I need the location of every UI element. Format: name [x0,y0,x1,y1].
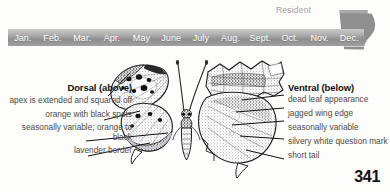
ventral-callout-tail: short tail [288,151,388,161]
ventral-callout-group: Ventral (below) dead leaf appearance jag… [288,82,388,165]
dorsal-callout-seasonal: seasonally variable; orange to black [4,123,132,142]
month-jan: Jan. [8,33,38,43]
dorsal-heading: Dorsal (above) [4,82,132,94]
ventral-callout-deadleaf: dead leaf appearance [288,95,388,105]
month-mar: Mar. [67,33,97,43]
month-nov: Nov. [305,33,335,43]
flight-period-month-bar: Jan. Feb. Mar. Apr. May June July Aug. S… [8,29,364,46]
ventral-callout-seasonal: seasonally variable [288,123,388,133]
month-may: May [127,33,157,43]
residency-status-label: Resident [276,5,311,15]
dorsal-callout-group: Dorsal (above) apex is extended and squa… [4,82,132,160]
month-jul: July [186,33,216,43]
month-dec: Dec. [334,33,364,43]
month-sep: Sept. [245,33,275,43]
ventral-heading: Ventral (below) [288,82,388,94]
dorsal-callout-spots: orange with black spots [4,110,132,120]
ventral-wing-group [199,61,284,178]
field-guide-page: Resident Jan. Feb. Mar. Apr. May June Ju… [0,0,390,192]
month-aug: Aug. [216,33,246,43]
month-oct: Oct. [275,33,305,43]
month-feb: Feb. [38,33,68,43]
dorsal-callout-apex: apex is extended and squared off [4,96,132,106]
page-number: 341 [354,168,380,186]
ventral-callout-questionmark: silvery white question mark [288,137,388,147]
dorsal-callout-border: lavender border [4,146,132,156]
ventral-callout-jagged: jagged wing edge [288,109,388,119]
month-apr: Apr. [97,33,127,43]
month-jun: June [156,33,186,43]
